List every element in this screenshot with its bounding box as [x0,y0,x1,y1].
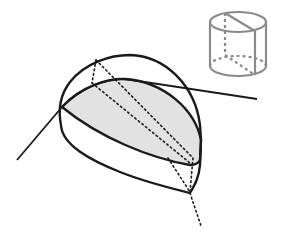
line-front-left [17,107,62,160]
diagram-canvas [0,0,284,234]
dotted-extension [190,193,201,226]
inset-cylinder-diagonal [225,13,255,31]
inset-cylinder [210,12,266,76]
inset-cylinder-bottom-front [210,66,266,76]
inset-cylinder-bottom-back [210,56,266,66]
